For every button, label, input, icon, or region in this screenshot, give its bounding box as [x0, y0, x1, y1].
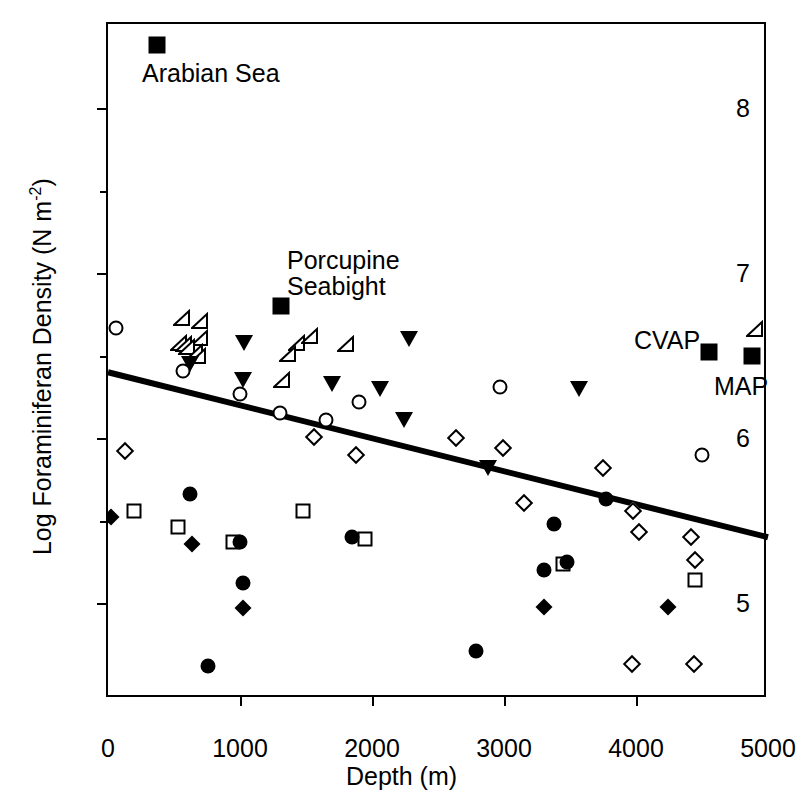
y-axis-title-text: Log Foraminiferan Density (N m — [28, 201, 56, 555]
data-point-filled-circle — [182, 487, 197, 502]
data-point-open-left-triangle — [301, 327, 319, 345]
data-point-open-diamond — [685, 655, 703, 673]
data-point-open-diamond — [447, 429, 465, 447]
data-point-open-circle — [233, 386, 248, 401]
data-point-open-square — [358, 531, 373, 546]
data-point-open-diamond — [347, 446, 365, 464]
data-point-filled-down-triangle — [479, 460, 497, 476]
data-point-open-diamond — [305, 427, 323, 445]
data-point-open-diamond — [629, 523, 647, 541]
annotation-label: Porcupine Seabight — [287, 247, 400, 299]
data-point-filled-square — [744, 347, 761, 364]
y-axis-tick — [97, 108, 108, 110]
annotation-label: Arabian Sea — [142, 60, 280, 86]
data-point-open-circle — [351, 394, 366, 409]
y-axis-title: Log Foraminiferan Density (N m-2) — [27, 57, 56, 677]
data-point-filled-down-triangle — [235, 335, 253, 351]
data-point-open-left-triangle — [191, 312, 209, 330]
data-point-filled-circle — [469, 644, 484, 659]
y-axis-minor-tick — [100, 356, 108, 358]
data-point-open-circle — [695, 447, 710, 462]
y-axis-title-close: ) — [28, 178, 56, 186]
data-point-open-circle — [493, 380, 508, 395]
data-point-open-square — [127, 503, 142, 518]
x-axis-tick-label: 3000 — [476, 736, 532, 761]
data-point-filled-circle — [233, 535, 248, 550]
data-point-open-diamond — [682, 528, 700, 546]
y-axis-tick — [97, 438, 108, 440]
data-point-filled-diamond — [184, 535, 201, 552]
data-points-layer — [108, 24, 764, 695]
data-point-filled-down-triangle — [371, 381, 389, 397]
data-point-open-square — [688, 573, 703, 588]
data-point-open-diamond — [686, 551, 704, 569]
data-point-filled-circle — [598, 492, 613, 507]
data-point-open-left-triangle — [173, 309, 191, 327]
data-point-filled-circle — [536, 563, 551, 578]
data-point-filled-circle — [547, 517, 562, 532]
data-point-open-circle — [318, 413, 333, 428]
data-point-filled-square — [148, 37, 165, 54]
data-point-open-square — [170, 520, 185, 535]
data-point-open-left-triangle — [273, 371, 291, 389]
data-point-filled-circle — [560, 555, 575, 570]
y-axis-tick — [97, 273, 108, 275]
data-point-open-circle — [272, 406, 287, 421]
data-point-filled-circle — [201, 658, 216, 673]
data-point-filled-diamond — [535, 598, 552, 615]
x-axis-tick-label: 5000 — [740, 736, 796, 761]
y-axis-tick — [97, 603, 108, 605]
data-point-filled-down-triangle — [400, 331, 418, 347]
data-point-filled-square — [272, 298, 289, 315]
data-point-open-circle — [108, 320, 123, 335]
data-point-open-diamond — [116, 442, 134, 460]
plot-area: 5678010002000300040005000 Arabian SeaPor… — [106, 22, 766, 697]
y-axis-minor-tick — [100, 191, 108, 193]
y-axis-minor-tick — [100, 521, 108, 523]
data-point-open-diamond — [623, 655, 641, 673]
x-axis-tick-label: 1000 — [212, 736, 268, 761]
data-point-filled-diamond — [659, 598, 676, 615]
data-point-open-diamond — [515, 493, 533, 511]
data-point-open-circle — [176, 363, 191, 378]
data-point-open-diamond — [493, 439, 511, 457]
x-axis-tick-label: 4000 — [608, 736, 664, 761]
data-point-open-left-triangle — [746, 320, 764, 338]
data-point-filled-circle — [345, 530, 360, 545]
data-point-open-diamond — [624, 502, 642, 520]
figure-container: Log Foraminiferan Density (N m-2) Depth … — [0, 0, 803, 809]
data-point-filled-circle — [235, 576, 250, 591]
annotation-label: CVAP — [634, 327, 700, 353]
data-point-open-left-triangle — [279, 345, 297, 363]
x-axis-tick-label: 0 — [101, 736, 115, 761]
x-axis-tick-label: 2000 — [344, 736, 400, 761]
data-point-open-left-triangle — [337, 335, 355, 353]
data-point-filled-square — [700, 344, 717, 361]
y-axis-title-exponent: -2 — [27, 187, 44, 201]
x-axis-title: Depth (m) — [0, 762, 803, 791]
data-point-filled-down-triangle — [395, 412, 413, 428]
data-point-filled-diamond — [108, 509, 119, 526]
data-point-filled-down-triangle — [570, 381, 588, 397]
data-point-filled-diamond — [234, 600, 251, 617]
data-point-open-square — [296, 503, 311, 518]
annotation-label: MAP — [714, 373, 768, 399]
data-point-open-diamond — [594, 459, 612, 477]
data-point-filled-down-triangle — [323, 376, 341, 392]
